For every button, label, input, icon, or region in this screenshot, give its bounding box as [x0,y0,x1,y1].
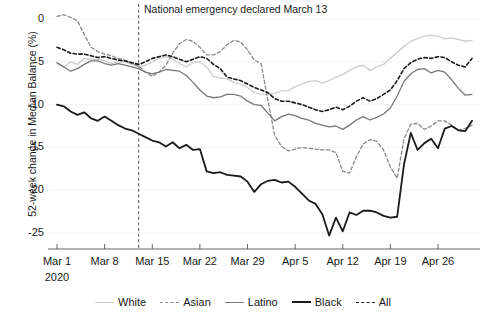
legend-item-black[interactable]: Black [292,296,342,308]
legend-item-asian[interactable]: Asian [160,296,211,308]
series-line-white [57,35,472,94]
legend-item-all[interactable]: All [356,296,391,308]
legend-swatch-latino [225,302,244,303]
y-axis-tick-label: 0 [14,12,44,24]
legend-swatch-asian [160,302,179,303]
annotation-national-emergency: National emergency declared March 13 [144,3,327,15]
y-axis-tick-label: -5 [14,55,44,67]
legend-swatch-white [95,302,114,303]
y-axis-tick-label: -25 [14,226,44,238]
chart-legend: White Asian Latino Black All [0,296,486,308]
series-line-asian [57,15,472,179]
legend-swatch-black [292,301,311,303]
legend-label-asian: Asian [183,296,211,308]
y-axis-tick-label: -15 [14,140,44,152]
legend-item-white[interactable]: White [95,296,146,308]
chart-container: 52-week change in Median Balance (%) Nat… [0,0,486,322]
series-line-all [57,47,472,111]
legend-label-all: All [379,296,391,308]
x-axis-tick-label: Apr 26 [408,255,468,267]
y-axis-tick-label: -10 [14,98,44,110]
series-line-latino [57,61,472,129]
legend-label-black: Black [315,296,342,308]
legend-label-white: White [118,296,146,308]
series-line-black [57,105,472,236]
legend-label-latino: Latino [248,296,278,308]
x-axis-year-label: 2020 [27,271,87,283]
y-axis-tick-label: -20 [14,183,44,195]
legend-item-latino[interactable]: Latino [225,296,278,308]
legend-swatch-all [356,302,375,303]
